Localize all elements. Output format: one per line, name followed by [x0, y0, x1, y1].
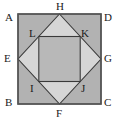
vertex-label-H: H — [56, 1, 64, 12]
vertex-label-I: I — [30, 83, 34, 94]
vertex-label-G: G — [104, 53, 112, 64]
vertex-label-B: B — [5, 97, 12, 108]
vertex-label-F: F — [56, 108, 62, 119]
vertex-label-A: A — [5, 12, 13, 23]
geometry-figure: A D B C H G F E L K J I — [0, 0, 119, 122]
inner-square-LKJI — [39, 37, 80, 82]
vertex-label-C: C — [104, 97, 111, 108]
vertex-label-D: D — [104, 12, 112, 23]
vertex-label-L: L — [29, 28, 36, 39]
vertex-label-J: J — [81, 83, 85, 94]
vertex-label-K: K — [81, 28, 89, 39]
geometry-svg — [0, 0, 119, 122]
vertex-label-E: E — [4, 53, 11, 64]
